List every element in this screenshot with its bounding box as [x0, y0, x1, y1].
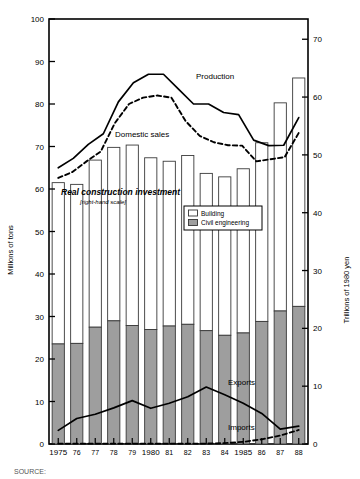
y-tick-label: 10: [35, 398, 44, 407]
left-axis-title: Millions of tons: [6, 225, 15, 275]
x-tick-label: 82: [184, 449, 192, 456]
x-tick-label: 1985: [234, 448, 252, 457]
y-tick-label: 60: [35, 185, 44, 194]
y-tick-label: 50: [35, 228, 44, 237]
bar-segment-building: [145, 158, 157, 330]
x-tick-label: 84: [221, 449, 229, 456]
bar-segment-civil-engineering: [71, 343, 83, 444]
bar-segment-building: [163, 161, 175, 326]
annotation-exports: Exports: [228, 378, 255, 387]
source-note: SOURCE:: [14, 468, 46, 475]
bar-group: [182, 155, 194, 444]
x-tick-label: 1975: [49, 448, 67, 457]
x-tick-label: 88: [295, 449, 303, 456]
investment-subtitle: [right-hand scale]: [79, 199, 126, 205]
x-tick-label: 83: [202, 449, 210, 456]
x-tick-label: 79: [128, 449, 136, 456]
annotation-production: Production: [196, 72, 234, 81]
chart-figure: 0102030405060708090100010203040506070 19…: [0, 0, 360, 479]
bar-segment-building: [219, 177, 231, 335]
bar-segment-civil-engineering: [89, 327, 101, 444]
x-tick-label: 77: [91, 449, 99, 456]
legend: Building Civil engineering: [184, 206, 262, 230]
bar-group: [256, 143, 268, 444]
y-tick-label: 90: [35, 58, 44, 67]
x-tick-label: 87: [276, 449, 284, 456]
annotation-imports: Imports: [228, 423, 255, 432]
bar-segment-building: [200, 173, 212, 330]
bar-segment-building: [256, 143, 268, 322]
y2-tick-label: 40: [313, 209, 322, 218]
bar-segment-civil-engineering: [182, 324, 194, 444]
y-tick-label: 80: [35, 100, 44, 109]
bar-segment-building: [126, 145, 138, 325]
y2-tick-label: 50: [313, 151, 322, 160]
x-tick-label: 86: [258, 449, 266, 456]
investment-title: Real construction investment: [61, 187, 181, 197]
y2-tick-label: 10: [313, 382, 322, 391]
y2-tick-label: 70: [313, 35, 322, 44]
y2-tick-label: 0: [313, 440, 318, 449]
bar-segment-building: [293, 78, 305, 306]
legend-label-civil: Civil engineering: [201, 219, 249, 227]
x-tick-label: 81: [165, 449, 173, 456]
y-tick-label: 30: [35, 313, 44, 322]
right-axis-title: Trillions of 1980 yen: [342, 257, 351, 324]
bar-group: [145, 158, 157, 444]
bar-segment-building: [89, 160, 101, 327]
bar-segment-building: [71, 184, 83, 343]
bar-segment-civil-engineering: [145, 330, 157, 444]
legend-label-building: Building: [201, 210, 225, 218]
annotation-domestic-sales: Domestic sales: [115, 130, 169, 139]
x-tick-label: 1980: [142, 448, 160, 457]
bar-segment-building: [108, 147, 120, 320]
bar-segment-civil-engineering: [256, 321, 268, 444]
bar-group: [52, 183, 64, 444]
bar-segment-civil-engineering: [126, 325, 138, 444]
bar-segment-building: [237, 169, 249, 333]
bar-group: [274, 103, 286, 444]
bar-segment-civil-engineering: [108, 321, 120, 444]
bar-segment-building: [52, 183, 64, 344]
y-tick-label: 70: [35, 143, 44, 152]
bar-segment-building: [274, 103, 286, 311]
bar-segment-civil-engineering: [274, 311, 286, 444]
legend-swatch-civil: [189, 220, 198, 226]
legend-swatch-building: [189, 210, 198, 216]
bar-segment-civil-engineering: [293, 306, 305, 444]
y2-tick-label: 20: [313, 324, 322, 333]
bar-group: [71, 184, 83, 444]
y-tick-label: 100: [31, 15, 45, 24]
y-tick-label: 20: [35, 355, 44, 364]
y-tick-label: 40: [35, 270, 44, 279]
steel-production-construction-chart: 0102030405060708090100010203040506070 19…: [0, 0, 360, 479]
x-tick-label: 76: [73, 449, 81, 456]
y2-tick-label: 60: [313, 93, 322, 102]
x-tick-label: 78: [110, 449, 118, 456]
bar-segment-civil-engineering: [163, 326, 175, 444]
bar-segment-building: [182, 155, 194, 324]
y-tick-label: 0: [40, 440, 45, 449]
y2-tick-label: 30: [313, 267, 322, 276]
